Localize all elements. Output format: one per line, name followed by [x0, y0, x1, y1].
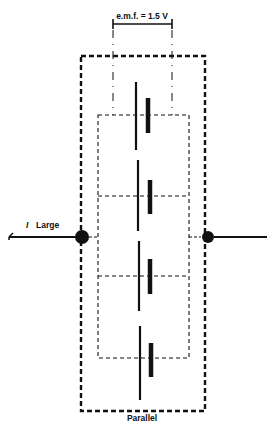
current-label: Large [36, 220, 59, 230]
inner-boundary [98, 115, 189, 358]
cell-1 [136, 82, 148, 150]
emf-label: e.m.f. = 1.5 V [116, 11, 168, 21]
current-symbol: I [26, 220, 29, 230]
parallel-circuit-diagram: e.m.f. = 1.5 V I Large Parallel [0, 0, 271, 425]
right-terminal [202, 231, 214, 243]
left-terminal [75, 230, 89, 244]
diagram-caption: Parallel [127, 413, 157, 423]
cell-4 [140, 326, 151, 400]
emf-dimension: e.m.f. = 1.5 V [113, 11, 172, 115]
